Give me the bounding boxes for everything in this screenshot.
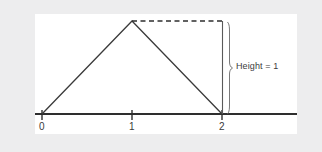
triangular-function-figure: 0 1 2 Height = 1	[0, 0, 322, 152]
triangle-curve	[42, 21, 222, 114]
x-tick-label-1: 1	[122, 121, 142, 132]
x-tick-label-2: 2	[212, 121, 232, 132]
curly-brace	[228, 22, 233, 114]
x-tick-label-0: 0	[32, 121, 52, 132]
height-annotation-label: Height = 1	[236, 61, 278, 71]
